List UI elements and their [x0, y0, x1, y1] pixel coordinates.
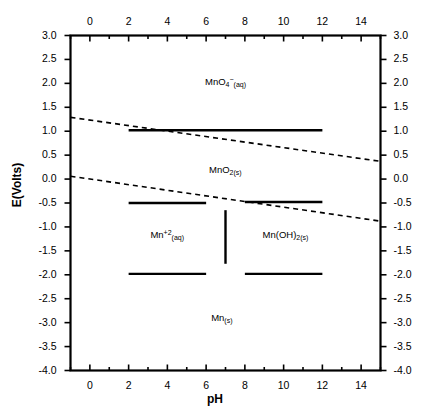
- y-tick-label-right: -2.0: [394, 268, 426, 280]
- y-tick-label-left: -3.5: [23, 340, 57, 352]
- y-tick-label-right: 2.5: [394, 52, 426, 64]
- y-tick-label-left: 0.5: [23, 148, 57, 160]
- y-tick-label-right: 0.5: [394, 148, 426, 160]
- data-series: [71, 117, 381, 273]
- pourbaix-diagram-figure: E(Volts) pH 3.03.02.52.52.02.01.51.51.01…: [0, 0, 426, 415]
- y-tick-label-left: -0.5: [23, 196, 57, 208]
- y-tick-label-right: -2.5: [394, 292, 426, 304]
- x-tick-label-top: 0: [77, 15, 103, 27]
- species-label-mnoh2: Mn(OH)2(s): [263, 229, 309, 241]
- y-tick-label-right: -3.5: [394, 340, 426, 352]
- plot-canvas: [0, 0, 426, 415]
- y-tick-label-right: 1.5: [394, 100, 426, 112]
- y-tick-label-left: 1.0: [23, 124, 57, 136]
- y-tick-label-left: 2.0: [23, 76, 57, 88]
- y-tick-label-left: -3.0: [23, 316, 57, 328]
- x-tick-label-bottom: 12: [309, 379, 335, 391]
- x-tick-label-bottom: 8: [232, 379, 258, 391]
- species-label-mn2aq: Mn+2(aq): [150, 229, 184, 241]
- x-tick-label-bottom: 0: [77, 379, 103, 391]
- x-tick-label-top: 10: [271, 15, 297, 27]
- x-tick-label-top: 2: [116, 15, 142, 27]
- y-tick-label-left: -2.5: [23, 292, 57, 304]
- x-tick-label-top: 12: [309, 15, 335, 27]
- y-tick-label-right: -1.0: [394, 220, 426, 232]
- y-tick-label-left: -1.5: [23, 244, 57, 256]
- x-tick-label-bottom: 2: [116, 379, 142, 391]
- x-tick-label-top: 6: [193, 15, 219, 27]
- y-tick-label-left: -1.0: [23, 220, 57, 232]
- water-stability-line: [71, 117, 381, 161]
- species-label-mno4: MnO4−(aq): [205, 76, 246, 88]
- y-tick-label-left: 0.0: [23, 172, 57, 184]
- x-tick-label-top: 14: [348, 15, 374, 27]
- x-axis-title: pH: [185, 392, 245, 406]
- x-tick-label-bottom: 10: [271, 379, 297, 391]
- y-tick-label-right: -4.0: [394, 364, 426, 376]
- y-tick-label-left: -2.0: [23, 268, 57, 280]
- species-label-mns: Mn(s): [211, 312, 232, 324]
- y-tick-label-right: -3.0: [394, 316, 426, 328]
- x-tick-label-bottom: 6: [193, 379, 219, 391]
- y-tick-label-left: 3.0: [23, 29, 57, 41]
- x-tick-label-top: 4: [154, 15, 180, 27]
- y-tick-label-left: 1.5: [23, 100, 57, 112]
- y-tick-label-right: 0.0: [394, 172, 426, 184]
- y-tick-label-left: -4.0: [23, 364, 57, 376]
- species-label-mno2: MnO2(s): [209, 164, 242, 176]
- y-tick-label-right: 1.0: [394, 124, 426, 136]
- x-tick-label-bottom: 14: [348, 379, 374, 391]
- x-tick-label-bottom: 4: [154, 379, 180, 391]
- y-tick-label-right: -1.5: [394, 244, 426, 256]
- x-tick-label-top: 8: [232, 15, 258, 27]
- y-tick-label-right: -0.5: [394, 196, 426, 208]
- y-tick-label-right: 3.0: [394, 29, 426, 41]
- y-tick-label-right: 2.0: [394, 76, 426, 88]
- y-tick-label-left: 2.5: [23, 52, 57, 64]
